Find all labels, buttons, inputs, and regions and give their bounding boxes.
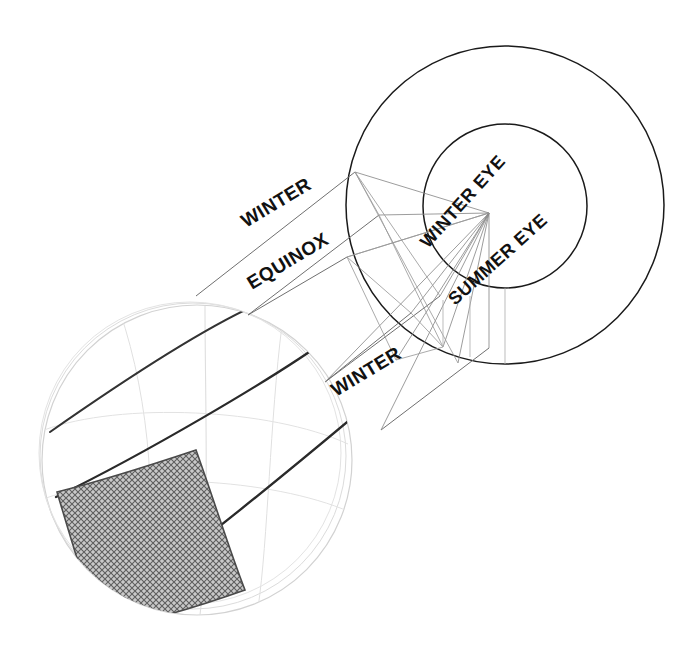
globe-surface [44,304,352,631]
seasonal-geometry-figure: WINTER EQUINOX WINTER WINTER EYE SUMMER … [0,0,690,657]
chord-2 [355,172,458,363]
meridian-3 [258,325,282,608]
chord-7 [411,313,443,347]
globe-group [39,302,352,631]
shadow-patch [57,450,245,631]
label-winter-eye: WINTER EYE [416,151,509,251]
label-winter-upper: WINTER [237,173,315,231]
ray-2 [379,213,489,215]
diagram-canvas: WINTER EQUINOX WINTER WINTER EYE SUMMER … [0,0,690,657]
label-group: WINTER EQUINOX WINTER WINTER EYE SUMMER … [237,151,551,400]
chord-9 [347,257,411,313]
label-summer-eye: SUMMER EYE [444,210,551,309]
latitude-1 [44,412,348,444]
